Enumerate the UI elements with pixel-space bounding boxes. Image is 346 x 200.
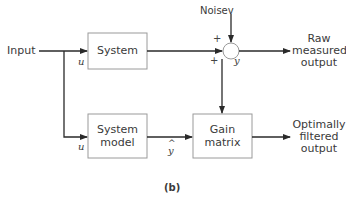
y-signal-label: y bbox=[234, 55, 240, 67]
u-signal-label-bottom: u bbox=[78, 141, 84, 153]
u-signal-label-top: u bbox=[78, 56, 84, 68]
diagram-lines bbox=[0, 0, 346, 200]
plus-sign-top: + bbox=[213, 33, 221, 44]
plus-sign-left: + bbox=[210, 55, 218, 66]
gain-matrix-label-line2: matrix bbox=[193, 136, 252, 149]
system-block-label: System bbox=[88, 44, 147, 57]
gain-matrix-label-line1: Gain bbox=[193, 123, 252, 136]
noise-label: Noisev bbox=[200, 5, 234, 17]
system-model-label-line2: model bbox=[88, 136, 147, 149]
y-hat-label: y bbox=[168, 145, 174, 157]
raw-output-label-line3: output bbox=[292, 57, 346, 69]
figure-caption: (b) bbox=[164, 182, 180, 194]
system-model-label-line1: System bbox=[88, 123, 147, 136]
filtered-output-label-line3: output bbox=[292, 143, 346, 155]
input-label: Input bbox=[7, 45, 35, 57]
